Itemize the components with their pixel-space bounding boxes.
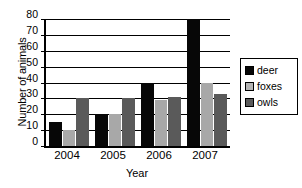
x-axis-title: Year (44, 167, 230, 179)
y-axis-tick-label: 40 (17, 73, 38, 83)
y-axis-tick-label: 80 (17, 9, 38, 19)
bar-foxes-2007 (201, 83, 214, 147)
bar-owls-2006 (168, 97, 181, 146)
bar-owls-2004 (76, 98, 89, 146)
bar-owls-2007 (214, 94, 227, 146)
bar-foxes-2004 (63, 130, 76, 146)
legend-item-foxes: foxes (245, 79, 293, 94)
legend-swatch-icon (245, 66, 254, 75)
x-axis-tick-labels: 2004200520062007 (44, 149, 230, 165)
y-axis-tick-labels: 01020304050607080 (17, 14, 38, 147)
bar-series-container (46, 19, 230, 146)
y-axis-tick-label: 30 (17, 88, 38, 98)
bar-deer-2006 (141, 83, 154, 147)
legend-swatch-icon (245, 82, 254, 91)
bar-foxes-2005 (109, 114, 122, 146)
legend-item-owls: owls (245, 95, 293, 110)
x-axis-tick-label: 2007 (192, 149, 218, 161)
bar-deer-2004 (49, 122, 62, 146)
y-axis-tick-label: 60 (17, 41, 38, 51)
legend-item-label: foxes (257, 81, 282, 92)
x-axis-tick-label: 2005 (100, 149, 126, 161)
y-axis-tickmark (41, 146, 46, 147)
legend-swatch-icon (245, 98, 254, 107)
legend-item-label: owls (257, 97, 278, 108)
bar-foxes-2006 (155, 100, 168, 146)
plot-area (44, 19, 230, 148)
x-axis-tick-label: 2004 (54, 149, 80, 161)
bar-chart: Number of animals 01020304050607080 2004… (0, 0, 302, 188)
legend: deerfoxesowls (240, 58, 298, 115)
bar-deer-2007 (187, 19, 200, 146)
x-axis-tick-label: 2006 (146, 149, 172, 161)
y-axis-tick-label: 20 (17, 104, 38, 114)
legend-item-deer: deer (245, 63, 293, 78)
y-axis-tick-label: 70 (17, 25, 38, 35)
y-axis-tick-label: 0 (17, 136, 38, 146)
y-axis-tick-label: 10 (17, 120, 38, 130)
legend-item-label: deer (257, 65, 278, 76)
y-axis-tick-label: 50 (17, 57, 38, 67)
bar-owls-2005 (122, 98, 135, 146)
bar-deer-2005 (95, 114, 108, 146)
